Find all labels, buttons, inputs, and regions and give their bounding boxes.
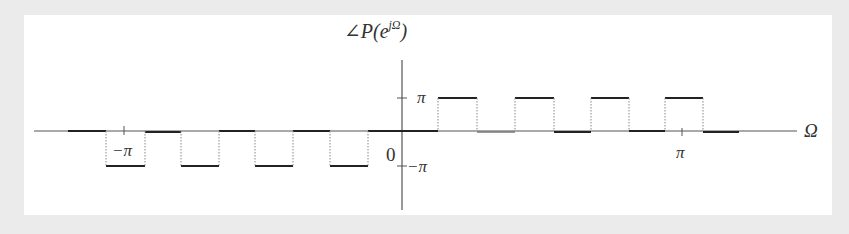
y-axis-label: ∠P(ejΩ) bbox=[344, 18, 407, 43]
x-tick-label-pi: π bbox=[676, 143, 685, 163]
phase-plot bbox=[0, 0, 849, 234]
x-tick-label-neg-pi: −π bbox=[112, 141, 132, 161]
x-axis-label: Ω bbox=[804, 120, 818, 142]
origin-label: 0 bbox=[386, 144, 396, 166]
y-tick-label-pi: π bbox=[417, 88, 426, 108]
y-tick-label-neg-pi: −π bbox=[407, 157, 427, 177]
phase-curve bbox=[68, 98, 739, 166]
